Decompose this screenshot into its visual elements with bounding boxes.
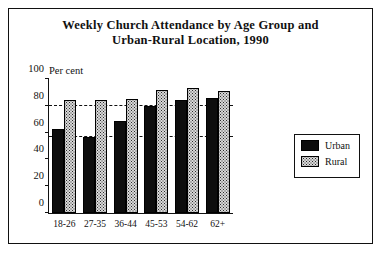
y-axis-label: Per cent [49, 65, 83, 76]
x-tick-label: 18-26 [53, 219, 75, 229]
y-tick-label: 0 [39, 197, 49, 208]
chart-title: Weekly Church Attendance by Age Group an… [9, 18, 372, 48]
chart-frame: Weekly Church Attendance by Age Group an… [8, 8, 373, 244]
y-tick-label: 40 [34, 143, 50, 154]
x-tick-label: 62+ [210, 219, 225, 229]
x-tick-label: 45-53 [145, 219, 167, 229]
legend-label-rural: Rural [325, 156, 347, 167]
legend-item-rural: Rural [301, 156, 359, 167]
x-tick-label: 36-44 [115, 219, 137, 229]
bar-urban [83, 137, 95, 213]
bar-group: 62+ [202, 79, 233, 213]
bar-group: 54-62 [172, 79, 203, 213]
chart-title-line-2: Urban-Rural Location, 1990 [9, 33, 372, 48]
bar-group: 45-53 [141, 79, 172, 213]
x-tick-label: 27-35 [84, 219, 106, 229]
bar-urban [52, 129, 64, 213]
bar-rural [126, 99, 138, 213]
bar-urban [175, 100, 187, 213]
bar-urban [206, 98, 218, 213]
y-tick-label: 60 [34, 116, 50, 127]
legend-item-urban: Urban [301, 140, 359, 151]
bar-rural [187, 88, 199, 213]
bar-rural [218, 91, 230, 213]
chart-title-line-1: Weekly Church Attendance by Age Group an… [62, 18, 318, 32]
y-tick-label: 100 [28, 63, 49, 74]
chart-legend: Urban Rural [294, 134, 360, 178]
bar-group: 27-35 [80, 79, 111, 213]
legend-swatch-rural-icon [301, 156, 319, 167]
bar-group: 18-26 [49, 79, 80, 213]
legend-swatch-urban-icon [301, 140, 319, 151]
bar-urban [144, 106, 156, 213]
x-tick-label: 54-62 [176, 219, 198, 229]
bar-rural [156, 90, 168, 213]
plot-area: 020406080100 18-2627-3536-4445-5354-6262… [48, 79, 233, 214]
bar-group: 36-44 [110, 79, 141, 213]
legend-label-urban: Urban [325, 140, 350, 151]
bar-rural [95, 100, 107, 213]
bar-rural [64, 100, 76, 213]
y-tick-label: 80 [34, 89, 50, 100]
y-tick-label: 20 [34, 170, 50, 181]
bar-urban [114, 121, 126, 213]
